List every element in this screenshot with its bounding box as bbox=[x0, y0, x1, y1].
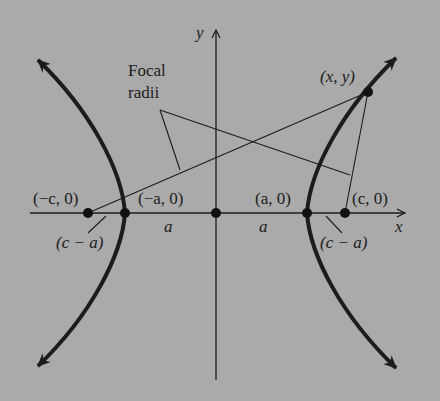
focal-radii-pointer-1 bbox=[160, 110, 180, 170]
focal-radii-label-line2: radii bbox=[128, 84, 159, 101]
right-focus-label: (c, 0) bbox=[352, 190, 388, 207]
left-vertex-point bbox=[120, 208, 130, 218]
y-axis-label: y bbox=[196, 24, 204, 41]
hyperbola-diagram: y x Focal radii (x, y) (−c, 0) (−a, 0) (… bbox=[0, 0, 440, 401]
left-focus-label: (−c, 0) bbox=[33, 190, 78, 207]
curve-point bbox=[363, 87, 373, 97]
left-c-minus-a-label: (c − a) bbox=[56, 234, 103, 251]
left-focus-point bbox=[83, 208, 93, 218]
c-minus-a-pointer-right bbox=[326, 216, 342, 233]
curve-point-label: (x, y) bbox=[320, 68, 355, 85]
right-vertex-label: (a, 0) bbox=[255, 190, 291, 207]
focal-radii-label-line1: Focal bbox=[128, 62, 166, 79]
origin-point bbox=[211, 208, 221, 218]
focal-radii-pointer-2 bbox=[160, 110, 350, 175]
right-vertex-point bbox=[302, 208, 312, 218]
c-minus-a-pointer-left bbox=[88, 216, 106, 233]
left-vertex-label: (−a, 0) bbox=[138, 190, 183, 207]
x-axis-label: x bbox=[395, 218, 403, 235]
right-c-minus-a-label: (c − a) bbox=[320, 234, 367, 251]
right-a-label: a bbox=[259, 218, 268, 235]
left-a-label: a bbox=[164, 218, 173, 235]
right-focus-point bbox=[340, 208, 350, 218]
